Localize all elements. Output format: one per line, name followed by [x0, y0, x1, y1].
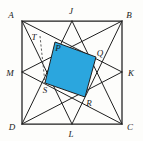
midpoint-label-m: M — [5, 68, 14, 78]
shaded-quadrilateral-pqrs — [45, 42, 96, 97]
geometry-figure-container: A B C D J K L M P Q R S T — [0, 0, 143, 141]
midpoint-label-k: K — [127, 68, 135, 78]
vertex-label-d: D — [8, 122, 16, 132]
vertex-label-a: A — [7, 10, 14, 20]
midpoint-label-l: L — [67, 129, 73, 139]
vertex-label-q: Q — [97, 48, 104, 58]
vertex-label-p: P — [54, 43, 61, 53]
vertex-label-t: T — [31, 32, 37, 42]
vertex-label-b: B — [126, 10, 132, 20]
geometry-figure-svg: A B C D J K L M P Q R S T — [0, 0, 143, 141]
vertex-label-c: C — [127, 122, 134, 132]
vertex-label-r: R — [85, 98, 92, 108]
midpoint-label-j: J — [69, 6, 74, 16]
vertex-label-s: S — [43, 85, 48, 95]
